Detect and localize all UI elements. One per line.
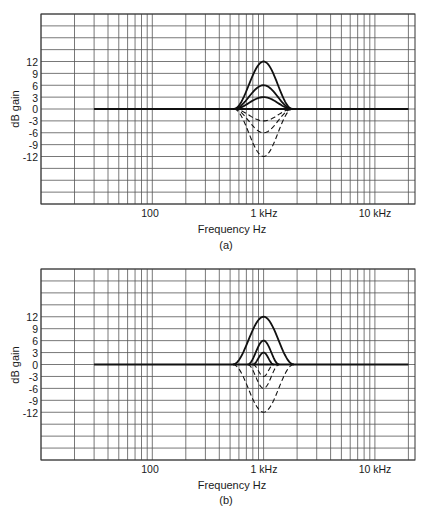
x-tick-a-100: 100	[141, 207, 159, 219]
x-tick-b-10k: 10 kHz	[359, 463, 392, 475]
x-tick-b-100: 100	[141, 463, 159, 475]
y-tick-b-m9: -9	[8, 395, 38, 407]
y-tick-b-m6: -6	[8, 383, 38, 395]
chart-panel-a: dB gain 12 9 6 3 0 -3 -6 -9 -12 100 1 kH…	[0, 0, 429, 258]
caption-b: (b)	[219, 494, 232, 506]
x-axis-label-a: Frequency Hz	[198, 223, 266, 235]
y-tick-b-3: 3	[8, 347, 38, 359]
y-tick-b-m3: -3	[8, 371, 38, 383]
y-tick-b-6: 6	[8, 335, 38, 347]
x-axis-label-b: Frequency Hz	[198, 479, 266, 491]
x-tick-a-1k: 1 kHz	[251, 207, 278, 219]
chart-panel-b: dB gain 12 9 6 3 0 -3 -6 -9 -12 100 1 kH…	[0, 255, 429, 514]
y-tick-a-9: 9	[8, 68, 38, 80]
cut-curve-3db	[234, 109, 293, 121]
y-tick-b-m12: -12	[8, 407, 38, 419]
y-tick-a-m9: -9	[8, 139, 38, 151]
y-tick-a-0: 0	[8, 103, 38, 115]
plot-area-b	[0, 255, 429, 514]
plot-area-a	[0, 0, 429, 258]
x-tick-b-1k: 1 kHz	[251, 463, 278, 475]
y-tick-a-6: 6	[8, 80, 38, 92]
caption-a: (a)	[219, 239, 232, 251]
y-tick-a-m3: -3	[8, 115, 38, 127]
y-tick-b-0: 0	[8, 359, 38, 371]
y-tick-b-9: 9	[8, 323, 38, 335]
x-tick-a-10k: 10 kHz	[359, 207, 392, 219]
y-tick-a-m12: -12	[8, 151, 38, 163]
y-tick-b-12: 12	[8, 311, 38, 323]
y-tick-a-12: 12	[8, 56, 38, 68]
y-tick-a-m6: -6	[8, 127, 38, 139]
